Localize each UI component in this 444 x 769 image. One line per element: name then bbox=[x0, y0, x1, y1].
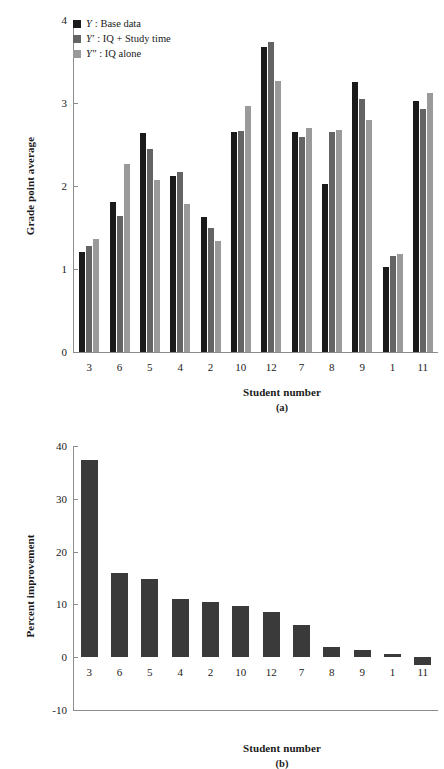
bar bbox=[261, 47, 267, 352]
bar bbox=[293, 625, 310, 657]
legend-a: Y: Base dataY′: IQ + Study timeY″: IQ al… bbox=[73, 16, 171, 61]
x-axis-tick-label: 6 bbox=[105, 667, 135, 678]
legend-item: Y′: IQ + Study time bbox=[73, 31, 171, 46]
x-axis-tick-label: 5 bbox=[135, 362, 165, 373]
x-axis-tick-label: 1 bbox=[378, 362, 408, 373]
x-axis-tick-label: 3 bbox=[74, 667, 104, 678]
bar bbox=[390, 256, 396, 352]
bar bbox=[275, 81, 281, 352]
x-axis-tick-label: 10 bbox=[226, 362, 256, 373]
bar bbox=[427, 93, 433, 352]
bar bbox=[202, 602, 219, 657]
bar bbox=[292, 132, 298, 352]
y-axis-tick-label: -10 bbox=[37, 705, 67, 716]
x-axis-tick-label: 12 bbox=[256, 362, 286, 373]
x-axis-tick-label: 5 bbox=[135, 667, 165, 678]
bar bbox=[366, 120, 372, 352]
bar bbox=[93, 239, 99, 352]
bar bbox=[177, 172, 183, 352]
panel-caption-a: (a) bbox=[0, 402, 444, 413]
bar bbox=[413, 101, 419, 352]
bar bbox=[86, 246, 92, 352]
bar bbox=[231, 132, 237, 352]
y-axis-tick-label: 30 bbox=[37, 494, 67, 505]
bar bbox=[81, 460, 98, 657]
legend-swatch-icon bbox=[73, 35, 81, 43]
y-axis-title-b: Percent improvement bbox=[24, 496, 36, 676]
x-axis-tick-label: 1 bbox=[378, 667, 408, 678]
x-axis-tick-label: 4 bbox=[165, 667, 195, 678]
x-axis-tick-label: 3 bbox=[74, 362, 104, 373]
bar bbox=[141, 579, 158, 658]
bar bbox=[147, 149, 153, 352]
y-axis-tick-label: 40 bbox=[37, 441, 67, 452]
y-axis-tick-label: 2 bbox=[37, 181, 67, 192]
y-axis-tick-label: 0 bbox=[37, 347, 67, 358]
legend-label: : Base data bbox=[95, 18, 141, 29]
bar bbox=[154, 180, 160, 352]
bar bbox=[215, 241, 221, 352]
bar bbox=[79, 252, 85, 352]
bar bbox=[397, 254, 403, 352]
x-axis-tick-label: 4 bbox=[165, 362, 195, 373]
legend-symbol: Y bbox=[86, 18, 92, 29]
bar bbox=[414, 657, 431, 664]
y-axis-tick-label: 20 bbox=[37, 547, 67, 558]
bar bbox=[238, 131, 244, 352]
x-axis-tick-label: 8 bbox=[317, 362, 347, 373]
x-axis-tick-label: 9 bbox=[347, 667, 377, 678]
bar bbox=[184, 204, 190, 352]
x-axis-line-a bbox=[73, 352, 438, 353]
panel-caption-b: (b) bbox=[0, 758, 444, 769]
x-axis-tick-label: 12 bbox=[256, 667, 286, 678]
legend-label: : IQ alone bbox=[99, 48, 141, 59]
x-axis-tick-label: 2 bbox=[196, 667, 226, 678]
bar bbox=[322, 184, 328, 352]
bar bbox=[299, 137, 305, 352]
x-axis-tick-label: 7 bbox=[287, 362, 317, 373]
x-axis-title-a: Student number bbox=[0, 386, 444, 398]
bar bbox=[110, 202, 116, 352]
x-axis-tick-label: 8 bbox=[317, 667, 347, 678]
x-axis-tick-label: 6 bbox=[105, 362, 135, 373]
x-axis-tick-label: 11 bbox=[408, 667, 438, 678]
bar bbox=[172, 599, 189, 657]
bar bbox=[383, 267, 389, 352]
x-axis-title-b: Student number bbox=[0, 742, 444, 754]
bar bbox=[124, 164, 130, 352]
bar bbox=[111, 573, 128, 657]
bar bbox=[268, 42, 274, 352]
legend-item: Y: Base data bbox=[73, 16, 171, 31]
y-axis-tick-label: 1 bbox=[37, 264, 67, 275]
y-axis-tick-label: 10 bbox=[37, 599, 67, 610]
bar bbox=[354, 650, 371, 657]
y-axis-tick-label: 0 bbox=[37, 652, 67, 663]
bar bbox=[352, 82, 358, 352]
legend-symbol: Y″ bbox=[86, 48, 96, 59]
bar bbox=[420, 109, 426, 352]
bar bbox=[323, 647, 340, 658]
legend-swatch-icon bbox=[73, 20, 81, 28]
bar bbox=[336, 130, 342, 352]
legend-symbol: Y′ bbox=[86, 33, 94, 44]
x-axis-tick-label: 11 bbox=[408, 362, 438, 373]
bar bbox=[117, 216, 123, 352]
y-axis-tick-label: 4 bbox=[37, 15, 67, 26]
bar bbox=[170, 176, 176, 352]
bar bbox=[140, 133, 146, 352]
y-axis-title-a: Grade point average bbox=[24, 96, 36, 276]
bar bbox=[201, 217, 207, 352]
bar bbox=[232, 606, 249, 657]
legend-label: : IQ + Study time bbox=[97, 33, 171, 44]
bar bbox=[263, 612, 280, 657]
bar bbox=[245, 106, 251, 352]
legend-swatch-icon bbox=[73, 50, 81, 58]
y-axis-tick-label: 3 bbox=[37, 98, 67, 109]
bar bbox=[208, 228, 214, 353]
legend-item: Y″: IQ alone bbox=[73, 46, 171, 61]
panel-b: Percent improvement -10010203040 3654210… bbox=[0, 430, 444, 760]
x-axis-tick-label: 10 bbox=[226, 667, 256, 678]
x-axis-line-b bbox=[73, 710, 438, 711]
panel-a: Grade point average 01234 36542101278911… bbox=[0, 0, 444, 420]
bar bbox=[384, 654, 401, 657]
